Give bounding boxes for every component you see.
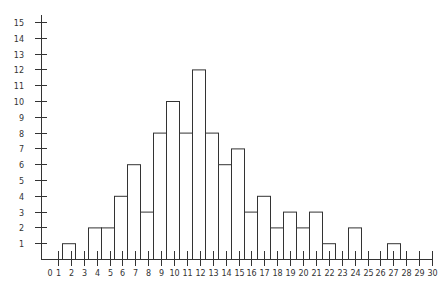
histogram-bar — [128, 165, 141, 260]
y-tick-label: 11 — [14, 82, 24, 91]
histogram-bars — [63, 70, 401, 260]
y-tick-label: 13 — [14, 51, 24, 60]
x-tick-label: 22 — [324, 269, 334, 278]
y-tick-label: 5 — [19, 177, 24, 186]
x-tick-label: 16 — [246, 269, 256, 278]
y-tick-label: 3 — [19, 209, 24, 218]
y-axis: 123456789101112131415 — [14, 15, 47, 260]
y-tick-label: 7 — [19, 145, 24, 154]
histogram-bar — [154, 133, 167, 259]
histogram-bar — [141, 212, 154, 259]
x-tick-label: 11 — [182, 269, 192, 278]
y-tick-label: 6 — [19, 161, 24, 170]
histogram-chart: 123456789101112131415 012345678910111213… — [0, 0, 446, 289]
x-tick-label: 18 — [272, 269, 282, 278]
x-tick-label: 10 — [169, 269, 179, 278]
x-tick-label: 12 — [195, 269, 205, 278]
histogram-bar — [63, 244, 76, 260]
y-tick-label: 1 — [19, 240, 24, 249]
x-tick-label: 21 — [311, 269, 321, 278]
x-tick-label: 26 — [375, 269, 385, 278]
x-tick-label: 14 — [221, 269, 231, 278]
histogram-bar — [115, 196, 128, 259]
histogram-bar — [167, 102, 180, 260]
x-tick-label: 8 — [146, 269, 151, 278]
y-tick-label: 8 — [19, 130, 24, 139]
x-tick-label: 25 — [363, 269, 373, 278]
y-tick-label: 14 — [14, 35, 24, 44]
x-tick-label: 29 — [414, 269, 424, 278]
x-tick-label: 20 — [298, 269, 308, 278]
x-tick-label: 2 — [69, 269, 74, 278]
histogram-bar — [232, 149, 245, 260]
histogram-bar — [206, 133, 219, 259]
x-tick-label: 27 — [388, 269, 398, 278]
y-tick-label: 12 — [14, 66, 24, 75]
y-tick-label: 15 — [14, 19, 24, 28]
x-tick-label: 5 — [108, 269, 113, 278]
histogram-bar — [193, 70, 206, 260]
x-tick-label: 7 — [133, 269, 138, 278]
x-tick-label: 3 — [82, 269, 87, 278]
x-tick-label: 15 — [234, 269, 244, 278]
x-tick-label: 24 — [350, 269, 360, 278]
histogram-bar — [102, 228, 115, 260]
histogram-bar — [89, 228, 102, 260]
y-tick-label: 2 — [19, 224, 24, 233]
x-tick-label: 1 — [56, 269, 61, 278]
x-tick-label: 23 — [337, 269, 347, 278]
y-tick-label: 9 — [19, 114, 24, 123]
histogram-bar — [180, 133, 193, 259]
histogram-bar — [219, 165, 232, 260]
histogram-bar — [258, 196, 271, 259]
x-tick-label: 4 — [95, 269, 100, 278]
y-tick-label: 4 — [19, 193, 24, 202]
x-tick-label: 9 — [159, 269, 164, 278]
x-tick-label: 30 — [427, 269, 437, 278]
y-tick-label: 10 — [14, 98, 24, 107]
x-tick-label: 17 — [259, 269, 269, 278]
x-tick-label: 6 — [120, 269, 125, 278]
x-tick-label: 19 — [285, 269, 295, 278]
x-tick-label: 13 — [208, 269, 218, 278]
x-tick-label: 28 — [401, 269, 411, 278]
x-tick-label: 0 — [47, 269, 52, 278]
